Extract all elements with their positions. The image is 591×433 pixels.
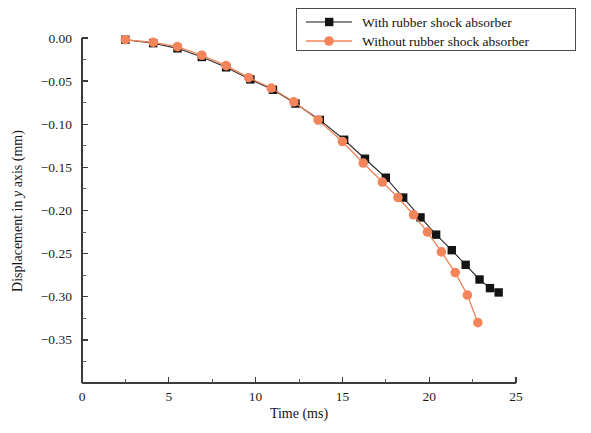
data-point-marker xyxy=(423,227,433,237)
y-axis-title: Displacement in y axis (mm) xyxy=(10,130,26,292)
y-tick-label: −0.10 xyxy=(41,117,72,132)
x-tick-label: 15 xyxy=(336,389,350,404)
legend: With rubber shock absorberWithout rubber… xyxy=(297,9,576,51)
data-point-marker xyxy=(338,137,348,147)
data-point-marker xyxy=(475,275,483,283)
legend-marker xyxy=(325,18,333,26)
data-point-marker xyxy=(244,73,254,83)
legend-marker xyxy=(324,36,334,46)
data-point-marker xyxy=(486,284,494,292)
y-tick-label: −0.35 xyxy=(41,332,72,347)
y-tick-label: −0.25 xyxy=(41,246,72,261)
data-point-marker xyxy=(409,210,419,220)
data-point-marker xyxy=(221,61,231,71)
legend-label: Without rubber shock absorber xyxy=(362,34,530,49)
y-tick-label: −0.05 xyxy=(41,74,72,89)
x-axis-tick-labels: 0510152025 xyxy=(79,389,523,404)
y-tick-label: −0.15 xyxy=(41,160,72,175)
y-tick-label: −0.20 xyxy=(41,203,72,218)
data-point-marker xyxy=(173,42,183,52)
y-tick-label: 0.00 xyxy=(48,31,72,46)
y-axis-ticks xyxy=(82,38,88,361)
data-point-marker xyxy=(450,268,460,278)
y-axis-tick-labels: 0.00−0.05−0.10−0.15−0.20−0.25−0.30−0.35 xyxy=(41,31,73,348)
data-point-marker xyxy=(148,38,158,48)
series-line xyxy=(125,40,477,323)
data-point-marker xyxy=(313,115,323,125)
x-axis-ticks xyxy=(82,377,516,383)
series-2 xyxy=(121,35,483,328)
data-point-marker xyxy=(437,247,447,257)
data-point-marker xyxy=(393,193,403,203)
x-axis-title-group: Time (ms) xyxy=(270,406,329,422)
x-tick-label: 20 xyxy=(422,389,436,404)
data-point-marker xyxy=(378,177,388,187)
data-point-marker xyxy=(494,288,502,296)
y-axis-title-group: Displacement in y axis (mm) xyxy=(10,130,26,292)
data-point-marker xyxy=(432,230,440,238)
data-point-marker xyxy=(289,97,299,107)
data-series-layer xyxy=(121,35,503,328)
plot-area xyxy=(82,38,516,383)
x-tick-label: 5 xyxy=(165,389,172,404)
data-point-marker xyxy=(121,35,131,45)
data-point-marker xyxy=(358,158,368,168)
x-tick-label: 0 xyxy=(79,389,86,404)
legend-label: With rubber shock absorber xyxy=(362,15,512,30)
data-point-marker xyxy=(461,261,469,269)
data-point-marker xyxy=(197,50,207,60)
data-point-marker xyxy=(473,318,483,328)
data-point-marker xyxy=(448,246,456,254)
x-axis-title: Time (ms) xyxy=(270,406,329,422)
y-tick-label: −0.30 xyxy=(41,289,72,304)
chart-figure: 0.00−0.05−0.10−0.15−0.20−0.25−0.30−0.35 … xyxy=(0,0,591,433)
x-tick-label: 10 xyxy=(249,389,263,404)
x-tick-label: 25 xyxy=(509,389,523,404)
chart-svg: 0.00−0.05−0.10−0.15−0.20−0.25−0.30−0.35 … xyxy=(0,0,591,433)
data-point-marker xyxy=(463,290,473,300)
data-point-marker xyxy=(266,83,276,93)
